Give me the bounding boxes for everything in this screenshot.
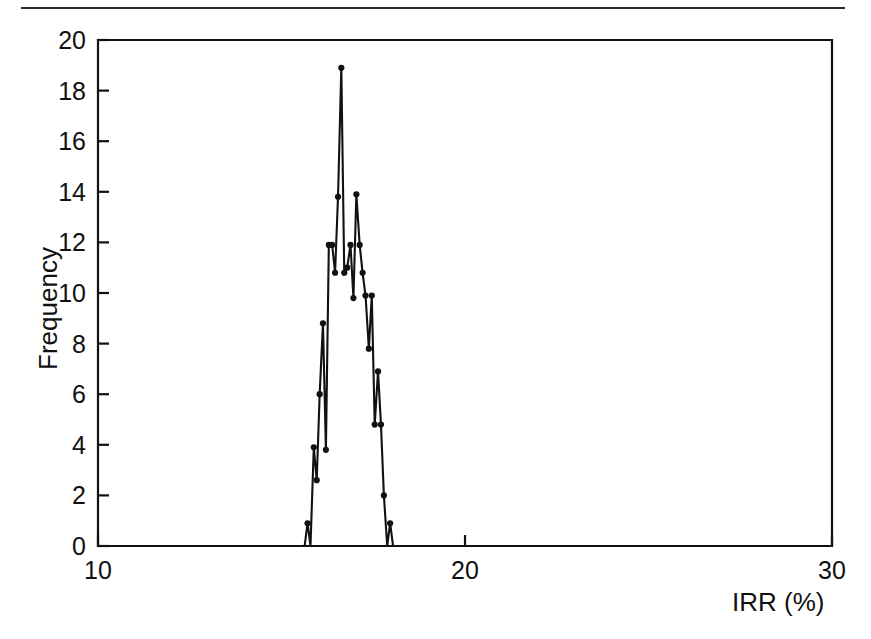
data-point-marker — [350, 295, 356, 301]
data-point-marker — [366, 346, 372, 352]
data-point-marker — [335, 194, 341, 200]
data-point-marker — [332, 270, 338, 276]
y-axis-title: Frequency — [33, 209, 64, 409]
data-point-marker — [320, 320, 326, 326]
data-point-marker — [360, 270, 366, 276]
y-axis-tick-marks — [98, 40, 109, 546]
y-tick-label: 2 — [2, 483, 86, 508]
chart-plot-area — [0, 0, 871, 639]
data-point-marker — [344, 265, 350, 271]
x-tick-label: 30 — [818, 558, 846, 583]
data-point-marker — [381, 492, 387, 498]
y-tick-label: 18 — [2, 78, 86, 103]
x-axis-title: IRR (%) — [732, 587, 824, 618]
x-tick-label: 10 — [84, 558, 112, 583]
figure-container: 02468101214161820 102030 Frequency IRR (… — [0, 0, 871, 639]
data-point-marker — [375, 368, 381, 374]
data-point-marker — [378, 421, 384, 427]
y-tick-label: 20 — [2, 28, 86, 53]
frequency-series-line — [305, 68, 393, 546]
data-point-marker — [357, 242, 363, 248]
data-point-marker — [387, 520, 393, 526]
y-tick-label: 14 — [2, 179, 86, 204]
data-point-marker — [317, 391, 323, 397]
plot-frame-border — [98, 40, 832, 546]
x-axis-tick-marks — [98, 535, 832, 546]
data-point-marker — [347, 242, 353, 248]
y-tick-label: 4 — [2, 432, 86, 457]
data-point-marker — [353, 191, 359, 197]
y-tick-label: 16 — [2, 129, 86, 154]
y-tick-label: 0 — [2, 534, 86, 559]
data-point-marker — [329, 242, 335, 248]
data-point-marker — [314, 477, 320, 483]
data-point-marker — [338, 65, 344, 71]
data-point-marker — [369, 292, 375, 298]
data-point-marker — [362, 292, 368, 298]
data-point-marker — [372, 421, 378, 427]
data-point-marker — [311, 444, 317, 450]
x-tick-label: 20 — [451, 558, 479, 583]
data-point-marker — [323, 447, 329, 453]
data-point-marker — [304, 520, 310, 526]
